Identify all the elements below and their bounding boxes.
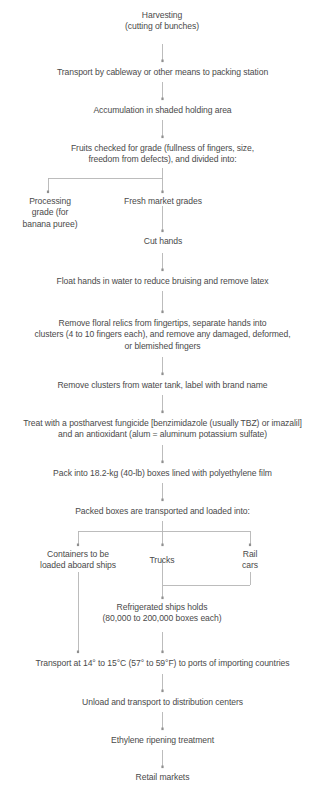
node-unload-transport: Unload and transport to distribution cen… bbox=[0, 697, 325, 708]
node-fresh-market-grades: Fresh market grades bbox=[92, 196, 234, 207]
arrowhead-icon bbox=[161, 499, 163, 502]
arrowhead-icon bbox=[77, 651, 79, 654]
node-transport-cableway: Transport by cableway or other means to … bbox=[0, 67, 325, 78]
arrowhead-icon bbox=[161, 136, 163, 139]
node-processing-grade: Processing grade (for banana puree) bbox=[8, 196, 92, 230]
node-fruits-checked: Fruits checked for grade (fullness of fi… bbox=[0, 143, 325, 166]
node-treat-fungicide: Treat with a postharvest fungicide [benz… bbox=[0, 418, 325, 441]
node-pack-boxes: Pack into 18.2-kg (40-lb) boxes lined wi… bbox=[0, 468, 325, 479]
node-float-hands: Float hands in water to reduce bruising … bbox=[0, 276, 325, 287]
arrowhead-icon bbox=[47, 191, 49, 194]
node-refrigerated-holds: Refrigerated ships holds (80,000 to 200,… bbox=[62, 602, 262, 625]
arrowhead-icon bbox=[161, 60, 163, 63]
node-cut-hands: Cut hands bbox=[92, 236, 234, 247]
node-rail-cars: Rail cars bbox=[218, 549, 282, 572]
node-retail-markets: Retail markets bbox=[0, 772, 325, 783]
arrowhead-icon bbox=[161, 690, 163, 693]
flowchart-canvas: Harvesting (cutting of bunches) Transpor… bbox=[0, 0, 325, 788]
arrowhead-icon bbox=[161, 766, 163, 769]
arrowhead-icon bbox=[77, 544, 79, 547]
arrowhead-icon bbox=[161, 191, 163, 194]
arrowhead-icon bbox=[161, 544, 163, 547]
node-trucks: Trucks bbox=[122, 555, 202, 566]
arrowhead-icon bbox=[161, 411, 163, 414]
arrowhead-icon bbox=[161, 728, 163, 731]
arrowhead-icon bbox=[161, 311, 163, 314]
node-ethylene-ripening: Ethylene ripening treatment bbox=[0, 735, 325, 746]
arrowhead-icon bbox=[161, 461, 163, 464]
node-remove-clusters: Remove clusters from water tank, label w… bbox=[0, 380, 325, 391]
node-packed-boxes-loaded: Packed boxes are transported and loaded … bbox=[0, 506, 325, 517]
connector-layer bbox=[0, 0, 325, 788]
node-transport-temperature: Transport at 14° to 15°C (57° to 59°F) t… bbox=[0, 658, 325, 669]
node-accumulation: Accumulation in shaded holding area bbox=[0, 105, 325, 116]
arrowhead-icon bbox=[161, 269, 163, 272]
node-remove-floral-relics: Remove floral relics from fingertips, se… bbox=[8, 318, 317, 352]
node-harvesting: Harvesting (cutting of bunches) bbox=[96, 10, 228, 33]
arrowhead-icon bbox=[161, 98, 163, 101]
arrowhead-icon bbox=[161, 651, 163, 654]
arrowhead-icon bbox=[161, 230, 163, 233]
arrowhead-icon bbox=[161, 597, 163, 600]
arrowhead-icon bbox=[161, 373, 163, 376]
arrowhead-icon bbox=[249, 544, 251, 547]
